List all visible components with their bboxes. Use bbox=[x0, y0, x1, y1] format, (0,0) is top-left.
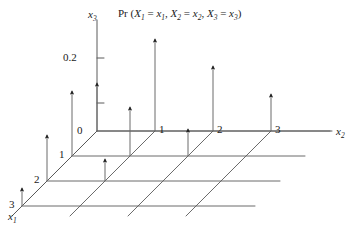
axis-label-x2: x2 bbox=[336, 126, 345, 140]
floor-grid bbox=[12, 131, 330, 216]
axis-label-x3: x3 bbox=[88, 9, 97, 23]
x1-tick-label-1: 1 bbox=[59, 149, 65, 160]
probability-mass-function-figure: Pr (X1 = x1, X2 = x2, X3 = x3) x3 x2 x1 … bbox=[0, 0, 356, 232]
plot-canvas bbox=[0, 0, 356, 232]
z-tick-label-0: 0 bbox=[77, 125, 83, 136]
grid-line-x2-1 bbox=[70, 131, 155, 216]
figure-title: Pr (X1 = x1, X2 = x2, X3 = x3) bbox=[118, 8, 241, 22]
x2-tick-label-2: 2 bbox=[217, 124, 223, 135]
axis-label-x1: x1 bbox=[8, 211, 17, 225]
grid-line-x2-3 bbox=[186, 131, 271, 216]
grid-line-x2-2 bbox=[128, 131, 213, 216]
x2-tick-label-1: 1 bbox=[159, 124, 165, 135]
x2-tick-label-3: 3 bbox=[275, 124, 281, 135]
x1-tick-label-3: 3 bbox=[9, 199, 15, 210]
x1-tick-label-2: 2 bbox=[34, 174, 40, 185]
axes-group bbox=[12, 20, 332, 216]
axis-x1 bbox=[12, 131, 97, 216]
z-tick-label-0point2: 0.2 bbox=[63, 52, 77, 63]
